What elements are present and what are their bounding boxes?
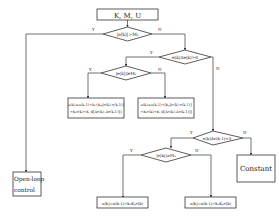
svg-text:e(k)Δe(k-1)<0: e(k)Δe(k-1)<0 — [203, 136, 232, 141]
start-box: K, M, U — [97, 9, 158, 20]
svg-text:u(k)=u(k-1)+k₂Kₚe(k): u(k)=u(k-1)+k₂Kₚe(k) — [102, 201, 144, 206]
decision-d3: |e(k)|≥M₂ — [101, 66, 151, 80]
svg-text:N: N — [195, 148, 199, 153]
svg-text:Open-loop: Open-loop — [14, 176, 44, 183]
decision-d5: |e(k)|≥M₂ — [141, 148, 191, 162]
flowchart-canvas: K, M, U |e(k)|>M₁ Y N e(k)Δe(k)>0 Y N |e… — [0, 0, 279, 224]
terminal-constant: Constant — [237, 155, 275, 182]
svg-text:+Kᵢe(k)+K_d[Δe(k)-Δe(k-1)]]: +Kᵢe(k)+K_d[Δe(k)-Δe(k-1)]] — [140, 110, 192, 114]
process-p2: u(k)=u(k-1)+[Kₚ[e(k)-e(k-1)] +Kᵢe(k)+K_d… — [138, 98, 194, 118]
svg-text:+Kᵢe(k)+K_d[Δe(k)-Δe(k-1)]}: +Kᵢe(k)+K_d[Δe(k)-Δe(k-1)]} — [70, 110, 122, 114]
svg-text:Y: Y — [88, 67, 92, 72]
svg-text:e(k)Δe(k)>0: e(k)Δe(k)>0 — [172, 55, 198, 60]
svg-text:Y: Y — [91, 27, 95, 32]
svg-text:Y: Y — [129, 148, 133, 153]
terminal-open-loop: Open-loop control — [13, 172, 44, 196]
svg-text:Constant: Constant — [240, 165, 272, 173]
svg-text:|e(k)|≥M₂: |e(k)|≥M₂ — [116, 71, 137, 76]
svg-text:N: N — [158, 67, 162, 72]
svg-text:|e(k)|≥M₂: |e(k)|≥M₂ — [156, 153, 176, 158]
decision-d1: |e(k)|>M₁ — [103, 27, 152, 41]
svg-text:Y: Y — [149, 50, 153, 55]
svg-text:N: N — [216, 66, 220, 71]
svg-text:N: N — [158, 27, 162, 32]
svg-text:K, M, U: K, M, U — [114, 12, 141, 20]
process-p3: u(k)=u(k-1)+k₂Kₚe(k) — [97, 197, 148, 208]
svg-text:u(k)=u(k-1)+[Kₚ[e(k)-e(k-1)]: u(k)=u(k-1)+[Kₚ[e(k)-e(k-1)] — [140, 103, 192, 107]
svg-text:control: control — [14, 187, 35, 193]
svg-text:N: N — [243, 130, 247, 135]
svg-text:u(k)=u(k-1)+k₁{Kₚ[e(k)-e(k-1)]: u(k)=u(k-1)+k₁{Kₚ[e(k)-e(k-1)] — [68, 103, 124, 107]
process-p1: u(k)=u(k-1)+k₁{Kₚ[e(k)-e(k-1)] +Kᵢe(k)+K… — [68, 98, 124, 118]
svg-text:u(k)=u(k-1)+k₃Kₚe(k): u(k)=u(k-1)+k₃Kₚe(k) — [190, 201, 232, 206]
process-p4: u(k)=u(k-1)+k₃Kₚe(k) — [185, 197, 236, 208]
decision-d2: e(k)Δe(k)>0 — [159, 50, 211, 64]
svg-text:Y: Y — [189, 130, 193, 135]
decision-d4: e(k)Δe(k-1)<0 — [193, 131, 243, 145]
